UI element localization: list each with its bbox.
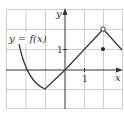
y-tick-label-1: 1 bbox=[57, 45, 63, 55]
x-tick-label-1: 1 bbox=[82, 74, 88, 84]
function-graph: y = f(x) y x 1 1 bbox=[0, 0, 124, 114]
filled-dot-marker bbox=[101, 47, 105, 51]
x-axis-label: x bbox=[115, 72, 121, 83]
function-label: y = f(x) bbox=[8, 33, 47, 44]
open-circle-marker bbox=[101, 27, 105, 31]
y-axis-label: y bbox=[55, 8, 62, 19]
